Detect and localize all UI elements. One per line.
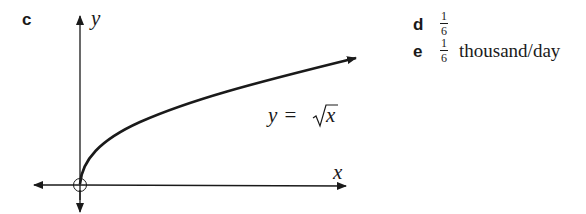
sqrt-curve [80,58,356,184]
part-e-numerator: 1 [441,37,447,49]
y-axis-label: y [91,6,100,31]
x-axis-label: x [333,160,342,185]
part-e-unit: thousand/day [459,40,560,62]
curve-label: y = x [268,103,298,128]
curve-label-lhs: y [268,103,277,127]
part-d-label: d [413,15,423,35]
part-e-fraction: 1 6 [440,37,448,64]
part-d-fraction: 1 6 [440,10,448,37]
part-e-denominator: 6 [441,52,447,64]
curve-label-eq: = [285,103,297,127]
x-axis [80,185,346,186]
part-d-numerator: 1 [441,10,447,22]
curve-label-rhs: x [326,103,335,128]
part-e-label: e [413,42,422,62]
